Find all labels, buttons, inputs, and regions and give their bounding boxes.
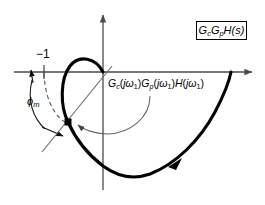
operating-point-leader-line <box>78 96 150 134</box>
phi-subscript: m <box>33 100 39 109</box>
nyquist-diagram: GcGpH(s) −1 ϕm Gc(jω1)Gp(jω1)H(jω1) <box>0 0 265 205</box>
operating-point-marker <box>65 119 72 126</box>
box-label-text: GcGpH(s) <box>199 24 245 38</box>
operating-point-label: Gc(jω1)Gp(jω1)H(jω1) <box>108 77 204 91</box>
critical-point-label: −1 <box>36 47 50 61</box>
transfer-function-box: GcGpH(s) <box>196 21 247 40</box>
phase-margin-label: ϕm <box>27 95 39 109</box>
